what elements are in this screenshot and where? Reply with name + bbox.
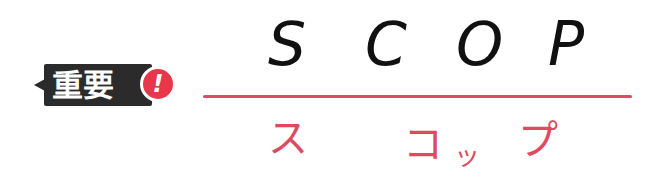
katakana-ko: コ [403,124,443,164]
term-letter-s: S [268,14,306,74]
term-letter-c: C [365,14,407,74]
term-letter-p: P [548,14,584,74]
katakana-small-tsu: ッ [454,136,480,176]
divider-line [203,95,632,98]
katakana-pu: プ [518,120,558,160]
katakana-su: ス [268,118,308,158]
vocabulary-term: S C O P ス コ ッ プ [0,0,665,180]
term-letter-o: O [456,14,503,74]
